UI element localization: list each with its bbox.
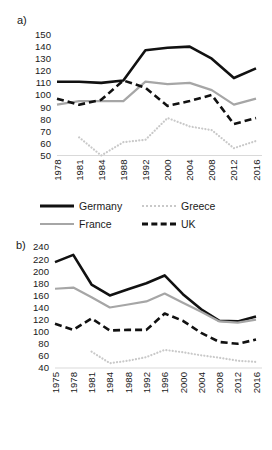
panel-b-plot: 2402202001801601401201008060401975197819…: [0, 230, 272, 425]
series-line-germany: [55, 255, 256, 322]
y-axis-tick: 160: [33, 290, 49, 301]
france-line-icon: [40, 219, 74, 229]
x-axis-tick: 1992: [140, 160, 151, 181]
series-line-greece: [79, 118, 256, 156]
legend-item-greece: Greece: [136, 200, 240, 212]
chart-panel-a: a) 1501401301201101009080706050197819811…: [0, 0, 272, 230]
y-axis-tick: 120: [35, 65, 51, 76]
series-line-germany: [57, 47, 256, 83]
y-axis-tick: 120: [33, 314, 49, 325]
legend-label-greece: Greece: [181, 200, 215, 212]
y-axis-tick: 50: [40, 150, 51, 161]
uk-line-icon: [142, 219, 176, 229]
x-axis-tick: 2004: [184, 159, 195, 181]
panel-a-svg: 1501401301201101009080706050197819811984…: [0, 0, 272, 200]
legend-item-uk: UK: [136, 218, 240, 230]
x-axis-tick: 2000: [178, 372, 189, 393]
y-axis-tick: 80: [38, 338, 49, 349]
x-axis-tick: 1984: [104, 371, 115, 393]
x-axis-tick: 1978: [52, 160, 63, 181]
germany-line-icon: [40, 201, 74, 211]
x-axis-tick: 2016: [251, 372, 262, 393]
y-axis-tick: 220: [33, 254, 49, 265]
x-axis-tick: 1992: [141, 372, 152, 393]
y-axis-tick: 110: [36, 77, 51, 88]
greece-line-icon: [142, 201, 176, 211]
legend-item-germany: Germany: [40, 200, 136, 212]
y-axis-tick: 240: [33, 241, 49, 252]
x-axis-tick: 2008: [214, 372, 225, 393]
legend-item-france: France: [40, 218, 136, 230]
figure: a) 1501401301201101009080706050197819811…: [0, 0, 272, 450]
legend-label-uk: UK: [181, 218, 196, 230]
x-axis-tick: 2012: [232, 372, 243, 393]
y-axis-tick: 100: [35, 89, 51, 100]
x-axis-tick: 2016: [251, 160, 262, 181]
x-axis-tick: 1988: [123, 372, 134, 393]
series-line-uk: [57, 80, 256, 124]
y-axis-tick: 140: [35, 41, 51, 52]
y-axis-tick: 70: [40, 126, 51, 137]
x-axis-tick: 2012: [228, 160, 239, 181]
series-line-greece: [92, 350, 256, 363]
y-axis-tick: 80: [40, 114, 51, 125]
y-axis-tick: 90: [40, 102, 51, 113]
y-axis-tick: 140: [33, 302, 49, 313]
panel-b-svg: 2402202001801601401201008060401975197819…: [0, 230, 272, 425]
x-axis-tick: 1996: [159, 372, 170, 393]
series-line-france: [57, 82, 256, 105]
x-axis-tick: 1988: [118, 160, 129, 181]
x-axis-tick: 2000: [162, 160, 173, 181]
series-line-uk: [55, 314, 256, 344]
x-axis-tick: 1981: [74, 160, 85, 181]
y-axis-tick: 130: [35, 53, 51, 64]
x-axis-tick: 1984: [96, 159, 107, 181]
legend-label-germany: Germany: [79, 200, 122, 212]
panel-a-legend: Germany Greece France UK: [40, 197, 240, 233]
x-axis-tick: 2008: [206, 160, 217, 181]
y-axis-tick: 60: [40, 138, 51, 149]
chart-panel-b: b) 2402202001801601401201008060401975197…: [0, 230, 272, 450]
legend-label-france: France: [79, 218, 112, 230]
panel-a-plot: 1501401301201101009080706050197819811984…: [0, 0, 272, 200]
y-axis-tick: 150: [35, 29, 51, 40]
x-axis-tick: 2004: [196, 371, 207, 393]
x-axis-tick: 1978: [68, 372, 79, 393]
y-axis-tick: 100: [33, 326, 49, 337]
series-line-france: [55, 288, 256, 323]
y-axis-tick: 40: [38, 362, 49, 373]
x-axis-tick: 1975: [50, 372, 61, 393]
y-axis-tick: 200: [33, 266, 49, 277]
y-axis-tick: 180: [33, 278, 49, 289]
x-axis-tick: 1981: [86, 372, 97, 393]
y-axis-tick: 60: [38, 350, 49, 361]
